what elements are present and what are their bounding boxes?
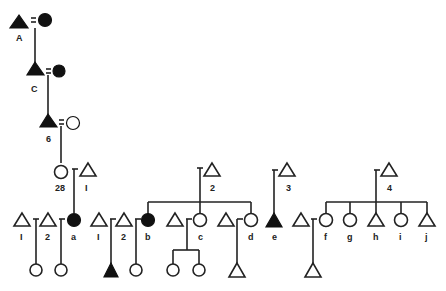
male-open-icon-4	[381, 163, 397, 176]
male-open-icon-2	[204, 163, 220, 176]
female-open-icon	[55, 264, 67, 276]
female-open-icon-f	[320, 214, 333, 227]
male-open-icon	[116, 213, 132, 226]
label-A: A	[16, 33, 23, 43]
male-filled-icon-6	[40, 114, 57, 127]
female-filled-icon-a	[68, 214, 81, 227]
female-open-icon	[30, 264, 42, 276]
label-g: g	[347, 232, 353, 242]
female-open-icon-g	[344, 214, 357, 227]
male-open-icon	[305, 263, 321, 277]
female-open-icon-c	[194, 214, 207, 227]
label-d: d	[248, 232, 254, 242]
label-1: I	[20, 232, 23, 242]
female-filled-icon	[53, 65, 65, 77]
label-3: 3	[286, 183, 291, 193]
label-6: 6	[46, 134, 51, 144]
male-open-icon-j	[419, 213, 435, 226]
label-b: b	[145, 232, 151, 242]
male-open-icon	[14, 213, 30, 226]
female-filled-icon-b	[142, 214, 155, 227]
label-2: 2	[45, 232, 50, 242]
male-open-icon-1	[80, 163, 96, 176]
male-filled-icon	[104, 263, 118, 277]
female-open-icon	[130, 264, 142, 276]
male-open-icon	[91, 213, 107, 226]
label-h: h	[373, 232, 379, 242]
female-open-icon-d	[245, 214, 258, 227]
female-open-icon	[193, 264, 205, 276]
kinship-diagram: A C 6 28 I I 2 a 2 I 2 b	[0, 0, 446, 291]
female-open-icon	[167, 264, 179, 276]
label-1: I	[85, 183, 88, 193]
label-j: j	[424, 232, 428, 242]
male-filled-icon-e	[266, 213, 282, 227]
male-open-icon	[293, 213, 309, 226]
female-open-icon-28	[55, 166, 68, 179]
label-a: a	[71, 232, 77, 242]
label-i: i	[399, 232, 402, 242]
male-open-icon	[229, 263, 245, 277]
male-open-icon	[40, 213, 56, 226]
female-open-icon	[67, 117, 80, 130]
male-open-icon	[167, 213, 183, 226]
female-filled-icon	[39, 14, 52, 27]
label-1: I	[97, 232, 100, 242]
male-open-icon-h	[368, 213, 384, 226]
female-open-icon-i	[395, 214, 408, 227]
label-2: 2	[121, 232, 126, 242]
label-28: 28	[55, 183, 65, 193]
label-2: 2	[210, 183, 215, 193]
male-filled-icon-A	[10, 15, 28, 28]
label-C: C	[31, 84, 38, 94]
male-filled-icon-C	[27, 62, 44, 75]
label-e: e	[272, 232, 277, 242]
male-open-icon-3	[279, 163, 295, 176]
male-open-icon	[218, 213, 234, 226]
label-c: c	[198, 232, 203, 242]
label-4: 4	[387, 183, 392, 193]
label-f: f	[324, 232, 328, 242]
